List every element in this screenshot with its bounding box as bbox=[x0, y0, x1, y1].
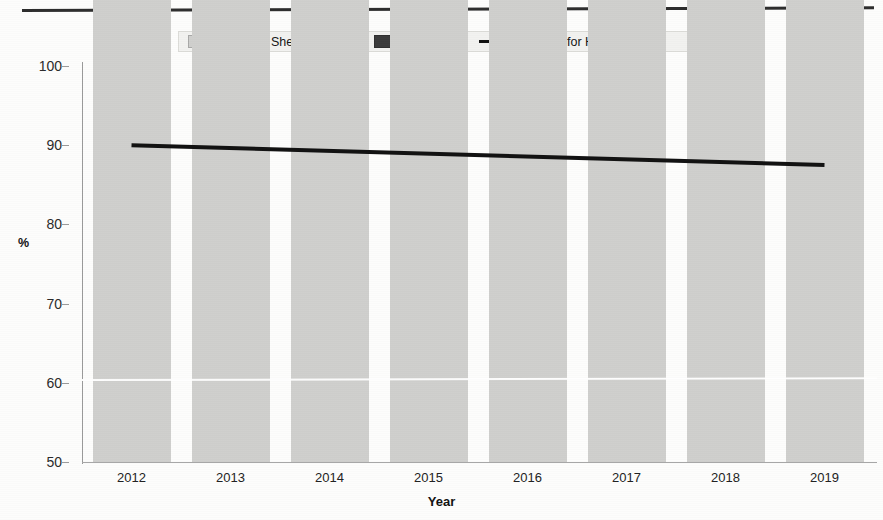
plot-area bbox=[82, 66, 874, 462]
x-tick-label-2015: 2015 bbox=[390, 470, 468, 485]
bar-group-2018[interactable] bbox=[687, 66, 765, 462]
y-tick-mark bbox=[62, 224, 69, 225]
bar-segment-he[interactable] bbox=[489, 0, 567, 462]
bar-segment-he[interactable] bbox=[192, 0, 270, 462]
bar-group-2019[interactable] bbox=[786, 66, 864, 462]
y-tick-label: 50 bbox=[22, 454, 62, 470]
y-axis-title: % bbox=[18, 236, 29, 250]
x-tick-label-2014: 2014 bbox=[291, 470, 369, 485]
y-tick-mark bbox=[62, 462, 69, 463]
x-tick-label-2012: 2012 bbox=[93, 470, 171, 485]
y-axis-tick-labels: 1009080706050 bbox=[22, 66, 62, 462]
bar-group-2015[interactable] bbox=[390, 66, 468, 462]
bar-segment-he[interactable] bbox=[93, 0, 171, 462]
y-tick-label: 70 bbox=[22, 296, 62, 312]
bar-group-2016[interactable] bbox=[489, 66, 567, 462]
x-tick-label-2017: 2017 bbox=[588, 470, 666, 485]
bar-group-2013[interactable] bbox=[192, 66, 270, 462]
bar-segment-he[interactable] bbox=[687, 0, 765, 462]
bar-series-container bbox=[82, 66, 874, 462]
y-tick-label: 100 bbox=[22, 58, 62, 74]
y-tick-label: 80 bbox=[22, 216, 62, 232]
bar-group-2012[interactable] bbox=[93, 66, 171, 462]
bar-segment-he[interactable] bbox=[291, 0, 369, 462]
y-tick-mark bbox=[62, 383, 69, 384]
x-axis-line bbox=[82, 462, 877, 463]
y-tick-mark bbox=[62, 304, 69, 305]
bar-segment-he[interactable] bbox=[588, 0, 666, 462]
chart-figure: HeSheTheyUnavailableTrend line for He 10… bbox=[0, 0, 883, 520]
x-tick-label-2019: 2019 bbox=[786, 470, 864, 485]
x-tick-label-2016: 2016 bbox=[489, 470, 567, 485]
bar-segment-he[interactable] bbox=[786, 0, 864, 462]
bar-group-2017[interactable] bbox=[588, 66, 666, 462]
y-tick-mark bbox=[62, 66, 69, 67]
y-tick-label: 90 bbox=[22, 137, 62, 153]
bar-group-2014[interactable] bbox=[291, 66, 369, 462]
y-tick-mark bbox=[62, 145, 69, 146]
bar-segment-he[interactable] bbox=[390, 0, 468, 462]
y-tick-label: 60 bbox=[22, 375, 62, 391]
x-axis-title: Year bbox=[0, 494, 883, 509]
x-tick-label-2013: 2013 bbox=[192, 470, 270, 485]
x-tick-label-2018: 2018 bbox=[687, 470, 765, 485]
